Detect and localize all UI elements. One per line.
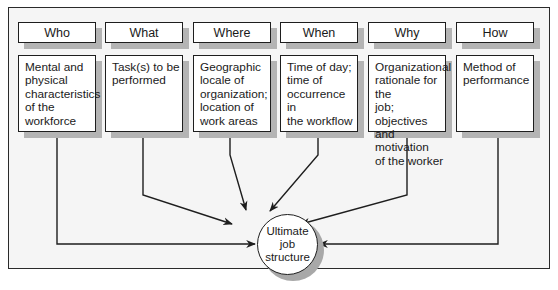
body-line: Mental and <box>25 61 95 74</box>
body-line: Time of day; <box>287 61 357 74</box>
header-label: When <box>303 26 336 40</box>
body-line: work areas <box>200 115 270 128</box>
center-line: structure <box>265 251 310 264</box>
body-line: Method of <box>463 61 533 74</box>
body-box-what: Task(s) to be performed <box>105 55 183 132</box>
header-box-how: How <box>456 22 534 43</box>
arrow-what <box>143 131 232 224</box>
body-line: Geographic <box>200 61 270 74</box>
body-line: physical <box>25 74 95 87</box>
header-box-who: Who <box>18 22 96 43</box>
body-box-when: Time of day; time of occurrence in the w… <box>280 55 358 132</box>
body-line: occurrence in <box>287 88 357 115</box>
header-box-what: What <box>105 22 183 43</box>
body-line: of the <box>25 101 95 114</box>
center-line: Ultimate <box>266 225 308 238</box>
header-box-when: When <box>280 22 358 43</box>
arrow-where <box>230 131 246 210</box>
body-box-where: Geographic locale of organization; locat… <box>193 55 271 132</box>
body-line: Organizational <box>375 61 445 74</box>
header-box-where: Where <box>193 22 271 43</box>
body-line: organization; <box>200 88 270 101</box>
header-label: Where <box>214 26 251 40</box>
body-line: locale of <box>200 74 270 87</box>
header-label: Why <box>395 26 420 40</box>
body-line: characteristics <box>25 88 95 101</box>
body-line: job; objectives <box>375 101 445 128</box>
header-box-why: Why <box>368 22 446 43</box>
arrow-who <box>57 131 255 244</box>
body-box-how: Method of performance <box>456 55 534 132</box>
body-line: workforce <box>25 115 95 128</box>
body-line: Task(s) to be <box>112 61 182 74</box>
body-box-who: Mental and physical characteristics of t… <box>18 55 96 132</box>
body-line: performed <box>112 74 182 87</box>
body-box-why: Organizational rationale for the job; ob… <box>368 55 446 132</box>
body-line: location of <box>200 101 270 114</box>
body-line: time of <box>287 74 357 87</box>
center-line: job <box>280 238 295 251</box>
center-node-ultimate-job-structure: Ultimate job structure <box>257 214 318 275</box>
body-line: performance <box>463 74 533 87</box>
header-label: Who <box>44 26 70 40</box>
header-label: How <box>482 26 507 40</box>
body-line: of the worker <box>375 155 445 168</box>
arrow-when <box>270 131 318 211</box>
header-label: What <box>129 26 158 40</box>
body-line: the workflow <box>287 115 357 128</box>
body-line: rationale for the <box>375 74 445 101</box>
body-line: and motivation <box>375 128 445 155</box>
